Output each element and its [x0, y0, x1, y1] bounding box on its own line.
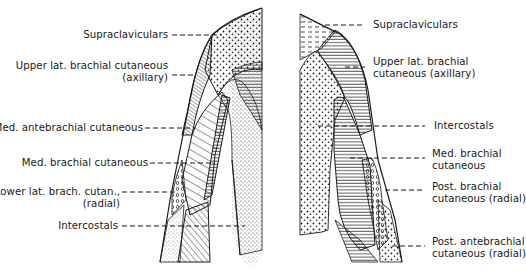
label-line: Med. brachial [432, 148, 502, 160]
label-med-brachial-right: Med. brachial cutaneous [432, 148, 502, 172]
label-line: Intercostals [434, 120, 494, 132]
label-line: Upper lat. brachial [373, 56, 475, 68]
label-med-brachial-left: Med. brachial cutaneous [22, 157, 148, 169]
label-upper-lat-brachial-left: Upper lat. brachial cutaneous (axillary) [16, 60, 168, 84]
label-line: (radial) [0, 198, 120, 210]
right-arm-figure [300, 14, 402, 262]
label-lower-lat-brach-left: Lower lat. brach. cutan., (radial) [0, 186, 120, 210]
label-line: Supraclaviculars [83, 29, 168, 41]
label-line: Post. antebrachial [432, 236, 526, 248]
label-line: Lower lat. brach. cutan., [0, 186, 120, 198]
label-line: Intercostals [58, 220, 118, 232]
label-intercostals-left: Intercostals [58, 220, 118, 232]
label-line: cutaneous (radial) [432, 193, 526, 205]
label-line: Upper lat. brachial cutaneous [16, 60, 168, 72]
label-intercostals-right: Intercostals [434, 120, 494, 132]
label-line: Med. antebrachial cutaneous [0, 122, 143, 134]
label-post-antebrachial-right: Post. antebrachial cutaneous (radial) [432, 236, 526, 260]
label-supraclaviculars-right: Supraclaviculars [373, 19, 458, 31]
label-line: Post. brachial [432, 181, 526, 193]
region-post-antebrachial [378, 200, 402, 262]
label-upper-lat-brachial-right: Upper lat. brachial cutaneous (axillary) [373, 56, 475, 80]
label-line: cutaneous (radial) [432, 248, 526, 260]
label-med-antebrachial-left: Med. antebrachial cutaneous [0, 122, 143, 134]
label-line: cutaneous [432, 160, 502, 172]
label-supraclaviculars-left: Supraclaviculars [83, 29, 168, 41]
label-line: (axillary) [16, 72, 168, 84]
label-post-brachial-right: Post. brachial cutaneous (radial) [432, 181, 526, 205]
label-line: Supraclaviculars [373, 19, 458, 31]
label-line: cutaneous (axillary) [373, 68, 475, 80]
label-line: Med. brachial cutaneous [22, 157, 148, 169]
